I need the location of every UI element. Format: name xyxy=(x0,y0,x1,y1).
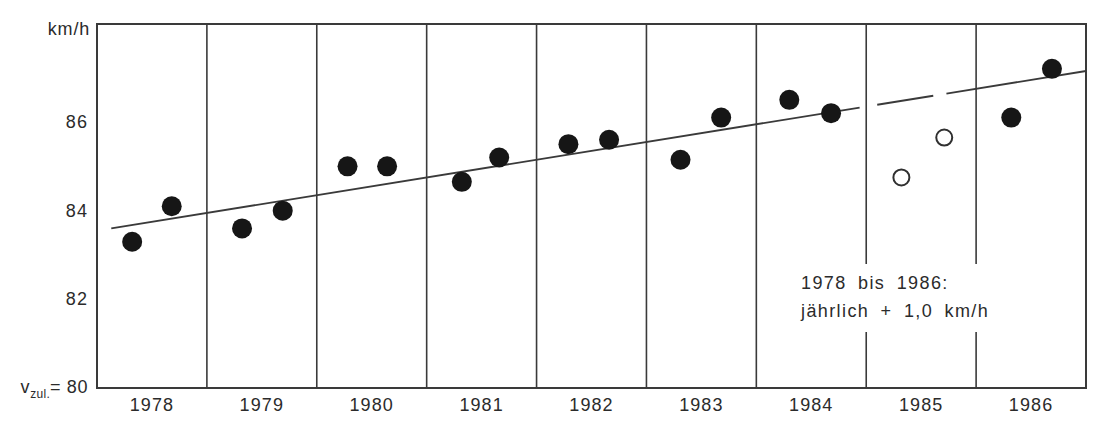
x-tick-label: 1980 xyxy=(349,395,393,416)
data-point-filled xyxy=(671,150,691,170)
trend-line-dash-segment xyxy=(877,96,933,105)
baseline-equals: = xyxy=(50,377,61,397)
chart-canvas xyxy=(0,0,1094,431)
baseline-value: 80 xyxy=(67,377,88,397)
data-point-filled xyxy=(711,108,731,128)
trend-annotation: 1978 bis 1986: jährlich + 1,0 km/h xyxy=(791,264,1025,332)
annotation-line-1: 1978 bis 1986: xyxy=(801,269,1019,297)
data-point-filled xyxy=(232,218,252,238)
data-point-filled xyxy=(599,130,619,150)
data-point-filled xyxy=(558,134,578,154)
x-tick-label: 1983 xyxy=(679,395,723,416)
baseline-symbol: v xyxy=(21,377,31,397)
x-tick-label: 1984 xyxy=(789,395,833,416)
data-point-open xyxy=(893,169,909,185)
x-tick-label: 1986 xyxy=(1009,395,1053,416)
trend-line-segment xyxy=(111,108,859,229)
data-point-filled xyxy=(821,103,841,123)
data-point-open xyxy=(936,130,952,146)
x-tick-label: 1982 xyxy=(569,395,613,416)
annotation-line-2: jährlich + 1,0 km/h xyxy=(801,297,1019,325)
data-point-filled xyxy=(273,201,293,221)
data-point-filled xyxy=(377,156,397,176)
baseline-subscript: zul. xyxy=(30,387,50,401)
y-axis-unit-label: km/h xyxy=(48,19,90,40)
x-tick-label: 1978 xyxy=(130,395,174,416)
trend-line-segment xyxy=(946,71,1086,94)
data-point-filled xyxy=(162,196,182,216)
baseline-label: vzul.= 80 xyxy=(21,377,88,401)
data-point-filled xyxy=(1042,59,1062,79)
y-tick-label: 82 xyxy=(66,289,88,310)
data-point-filled xyxy=(452,172,472,192)
data-point-filled xyxy=(489,147,509,167)
speed-trend-chart: km/h 868482 vzul.= 80 197819791980198119… xyxy=(0,0,1094,431)
data-point-filled xyxy=(122,232,142,252)
data-point-filled xyxy=(1001,108,1021,128)
x-tick-label: 1981 xyxy=(459,395,503,416)
x-tick-label: 1985 xyxy=(899,395,943,416)
y-tick-label: 86 xyxy=(66,112,88,133)
data-point-filled xyxy=(338,156,358,176)
data-point-filled xyxy=(779,90,799,110)
x-tick-label: 1979 xyxy=(240,395,284,416)
y-tick-label: 84 xyxy=(66,200,88,221)
